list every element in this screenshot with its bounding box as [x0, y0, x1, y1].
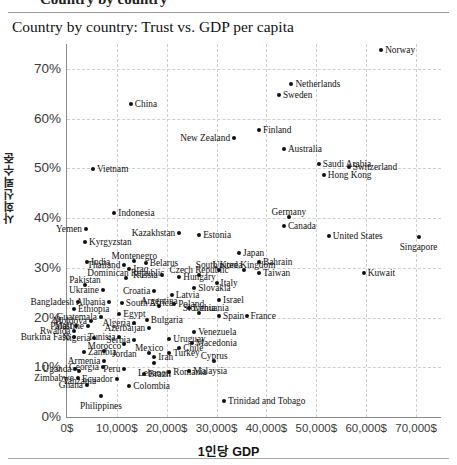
- data-point[interactable]: [127, 384, 131, 388]
- x-axis-tick-label: 60,000$: [345, 422, 387, 434]
- y-gridline: [67, 119, 441, 120]
- data-point-label: Turkey: [173, 349, 200, 358]
- data-point-label: Morocco: [88, 342, 122, 351]
- data-point[interactable]: [289, 82, 293, 86]
- data-point[interactable]: [379, 48, 383, 52]
- data-point[interactable]: [72, 307, 76, 311]
- data-point[interactable]: [101, 288, 105, 292]
- y-axis-tick-label: 50%: [25, 160, 61, 175]
- clipped-header-strip: Country by country: [0, 0, 457, 14]
- data-point-label: Nigeria: [63, 334, 91, 343]
- data-point[interactable]: [89, 319, 93, 323]
- data-point[interactable]: [115, 377, 119, 381]
- x-axis-tick-label: 40,000$: [246, 422, 288, 434]
- data-point[interactable]: [232, 136, 236, 140]
- data-point-label: Kuwait: [368, 269, 395, 278]
- data-point-label: Hong Kong: [328, 171, 372, 180]
- y-axis-tick-label: 40%: [25, 210, 61, 225]
- data-point-label: Japan: [243, 249, 264, 258]
- data-point-label: Germany: [272, 208, 307, 217]
- data-point-label: Indonesia: [118, 209, 154, 218]
- y-axis-title: 사회신뢰수준: [2, 152, 18, 224]
- footer-divider: [8, 458, 449, 459]
- data-point[interactable]: [177, 231, 181, 235]
- data-point[interactable]: [152, 361, 156, 365]
- data-point[interactable]: [197, 233, 201, 237]
- data-point-label: Taiwan: [263, 269, 290, 278]
- data-point[interactable]: [99, 394, 103, 398]
- data-point-label: Cyprus: [201, 352, 228, 361]
- data-point[interactable]: [282, 147, 286, 151]
- data-point-label: Sweden: [283, 91, 312, 100]
- data-point[interactable]: [102, 359, 106, 363]
- data-point[interactable]: [83, 240, 87, 244]
- data-point-label: Slovenia: [183, 304, 216, 313]
- data-point-label: New Zealand: [180, 134, 230, 143]
- data-point[interactable]: [77, 369, 81, 373]
- data-point[interactable]: [245, 314, 249, 318]
- data-point[interactable]: [129, 102, 133, 106]
- data-point[interactable]: [167, 337, 171, 341]
- data-point[interactable]: [237, 251, 241, 255]
- data-point[interactable]: [120, 301, 124, 305]
- data-point[interactable]: [282, 224, 286, 228]
- data-point[interactable]: [322, 173, 326, 177]
- data-point[interactable]: [152, 355, 156, 359]
- data-point[interactable]: [257, 271, 261, 275]
- data-point[interactable]: [142, 372, 146, 376]
- y-axis-tick-label: 60%: [25, 111, 61, 126]
- data-point-label: Croatia: [123, 287, 150, 296]
- data-point[interactable]: [277, 93, 281, 97]
- data-point[interactable]: [327, 234, 331, 238]
- data-point-label: Hungary: [183, 273, 216, 282]
- data-point[interactable]: [122, 367, 126, 371]
- data-point[interactable]: [122, 342, 126, 346]
- data-point[interactable]: [257, 128, 261, 132]
- data-point[interactable]: [85, 383, 89, 387]
- data-point-label: Netherlands: [295, 80, 340, 89]
- data-point-label: Kazakhstan: [132, 229, 175, 238]
- x-axis-tick-label: 0$: [61, 422, 74, 434]
- data-point[interactable]: [177, 275, 181, 279]
- x-axis-tick-label: 50,000$: [296, 422, 338, 434]
- data-point-label: Bulgaria: [151, 316, 183, 325]
- data-point[interactable]: [91, 167, 95, 171]
- data-point[interactable]: [145, 318, 149, 322]
- data-point[interactable]: [362, 271, 366, 275]
- data-point[interactable]: [82, 350, 86, 354]
- data-point-label: Canada: [288, 222, 316, 231]
- x-gridline: [117, 44, 118, 417]
- data-point[interactable]: [84, 227, 88, 231]
- data-point[interactable]: [317, 162, 321, 166]
- data-point[interactable]: [132, 338, 136, 342]
- data-point-label: Iran: [158, 353, 173, 362]
- data-point[interactable]: [192, 286, 196, 290]
- data-point[interactable]: [217, 298, 221, 302]
- data-point-label: Saudi Arabia: [323, 160, 371, 169]
- data-point-label: Estonia: [203, 231, 231, 240]
- data-point-label: Ukraine: [69, 286, 99, 295]
- x-axis-tick-label: 20,000$: [146, 422, 188, 434]
- data-point-label: Kyrgyzstan: [89, 238, 132, 247]
- data-point-label: France: [251, 312, 276, 321]
- data-point[interactable]: [417, 235, 421, 239]
- data-point[interactable]: [147, 326, 151, 330]
- data-point[interactable]: [122, 263, 126, 267]
- data-point[interactable]: [112, 211, 116, 215]
- data-point-label: Vietnam: [97, 165, 128, 174]
- data-point-label: Finland: [263, 126, 291, 135]
- x-gridline: [266, 44, 267, 417]
- data-point-label: Slovakia: [198, 284, 231, 293]
- data-point[interactable]: [222, 399, 226, 403]
- data-point-label: Bangladesh: [31, 298, 74, 307]
- data-point[interactable]: [217, 314, 221, 318]
- data-point-label: Australia: [288, 145, 322, 154]
- data-point[interactable]: [86, 324, 90, 328]
- scatter-plot-area: 0$10,000$20,000$30,000$40,000$50,000$60,…: [66, 44, 441, 418]
- data-point[interactable]: [117, 312, 121, 316]
- data-point[interactable]: [152, 289, 156, 293]
- data-point-label: Norway: [385, 46, 415, 55]
- data-point-label: Singapore: [400, 243, 438, 252]
- data-point-label: Yemen: [56, 225, 82, 234]
- data-point-label: Argentina: [141, 297, 178, 306]
